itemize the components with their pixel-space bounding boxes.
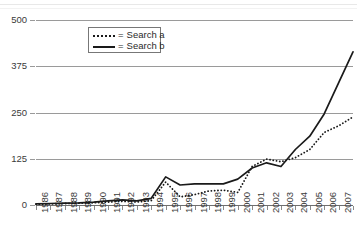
chart-legend: = Search a = Search b xyxy=(88,27,161,53)
legend-entry-a-label: Search a xyxy=(127,30,165,40)
legend-entry-search-b: = Search b xyxy=(93,40,165,52)
legend-entry-b-prefix: = xyxy=(118,41,124,51)
solid-line-swatch xyxy=(93,42,115,51)
series-line-search-b xyxy=(36,52,353,204)
series-line-search-a xyxy=(36,117,353,204)
legend-entry-a-prefix: = xyxy=(118,30,124,40)
line-chart: 0125250375500 19861987198819891990199119… xyxy=(0,0,357,251)
series-plot xyxy=(0,0,357,251)
dotted-line-swatch xyxy=(93,31,115,40)
legend-entry-b-label: Search b xyxy=(127,41,165,51)
